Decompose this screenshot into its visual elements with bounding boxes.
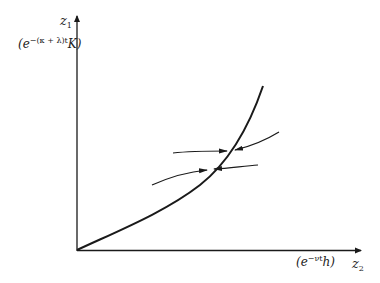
arrow-upper-left [173,151,227,153]
arrow-lower-left [152,170,207,185]
boundary-curve [77,86,263,250]
x-tick-label: (e−νth) [296,254,335,269]
y-tick-label: (e−(κ + λ)tK) [18,36,82,51]
y-axis-label: z1 [59,13,72,30]
phase-diagram: z1 (e−(κ + λ)tK) (e−νth) z2 [0,0,380,283]
x-axis-label: z2 [351,256,364,273]
